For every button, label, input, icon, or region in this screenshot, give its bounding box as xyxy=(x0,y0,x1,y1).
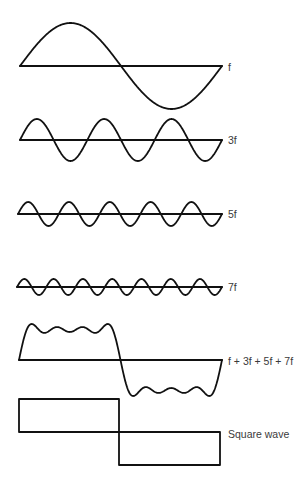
wave-label-square: Square wave xyxy=(228,429,289,440)
wave-label-f: f xyxy=(228,62,231,73)
wave-3f xyxy=(20,119,222,161)
square-wave-outline xyxy=(19,399,220,465)
wave-5f xyxy=(18,202,222,226)
wave-label-sum: f + 3f + 5f + 7f xyxy=(228,356,293,367)
wave-label-7f: 7f xyxy=(228,282,237,293)
wave-f xyxy=(20,23,222,109)
fourier-square-wave-diagram: f 3f 5f 7f f + 3f + 5f + 7f Square wave xyxy=(0,0,307,481)
wave-7f xyxy=(17,279,222,295)
wave-sum xyxy=(19,324,222,396)
square-wave xyxy=(19,399,220,465)
wave-label-3f: 3f xyxy=(228,135,237,146)
waveform-canvas xyxy=(0,0,307,481)
wave-label-5f: 5f xyxy=(228,209,237,220)
